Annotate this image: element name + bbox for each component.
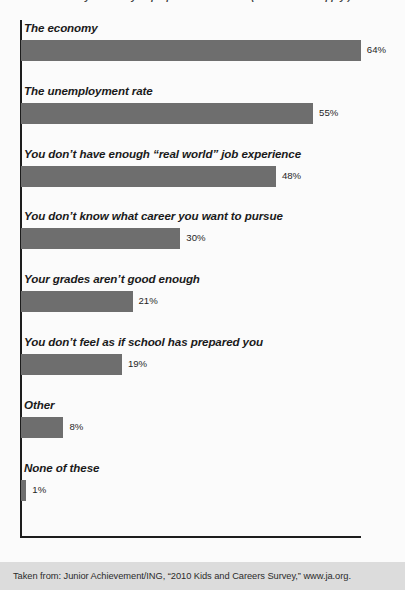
bar-track [21, 291, 133, 312]
bar-row: You don’t have enough “real world” job e… [0, 147, 405, 209]
survey-bar-chart-figure: worried about your ability to prepare fo… [0, 0, 405, 590]
bar-track [21, 166, 276, 187]
chart-title-text: worried about your ability to prepare fo… [18, 0, 351, 2]
bar-category-label: You don’t feel as if school has prepared… [24, 335, 263, 348]
bar-track [21, 480, 26, 501]
bar-fill [21, 103, 313, 124]
bar-track [21, 40, 361, 61]
bar-row: You don’t know what career you want to p… [0, 209, 405, 271]
bar-track [21, 103, 313, 124]
bar-fill [21, 228, 180, 249]
bar-track [21, 417, 63, 438]
bar-value-label: 19% [128, 358, 147, 369]
bar-category-label: You don’t know what career you want to p… [24, 209, 283, 222]
plot-area: The economy64%The unemployment rate55%Yo… [0, 9, 405, 562]
bar-row: You don’t feel as if school has prepared… [0, 335, 405, 397]
bar-value-label: 21% [139, 295, 158, 306]
bar-fill [21, 166, 276, 187]
source-attribution: Taken from: Junior Achievement/ING, “201… [13, 571, 351, 581]
bar-value-label: 48% [282, 170, 301, 181]
bar-row: Your grades aren’t good enough21% [0, 272, 405, 334]
bar-fill [21, 417, 63, 438]
bar-row: The economy64% [0, 21, 405, 83]
bar-value-label: 64% [367, 44, 386, 55]
bar-row: The unemployment rate55% [0, 84, 405, 146]
bar-value-label: 30% [186, 232, 205, 243]
bar-value-label: 8% [69, 421, 83, 432]
bar-category-label: You don’t have enough “real world” job e… [24, 147, 301, 160]
chart-title-cropped: worried about your ability to prepare fo… [0, 0, 405, 9]
bar-row: Other8% [0, 398, 405, 460]
bar-category-label: The unemployment rate [24, 84, 153, 97]
bar-fill [21, 354, 122, 375]
footer-band: Taken from: Junior Achievement/ING, “201… [0, 562, 405, 590]
bar-value-label: 1% [32, 484, 46, 495]
bar-category-label: None of these [24, 461, 99, 474]
bar-value-label: 55% [319, 107, 338, 118]
bar-track [21, 354, 122, 375]
bar-fill [21, 480, 26, 501]
bar-category-label: Your grades aren’t good enough [24, 272, 200, 285]
x-axis-line [20, 536, 361, 538]
bar-fill [21, 40, 361, 61]
bar-category-label: Other [24, 398, 54, 411]
bar-fill [21, 291, 133, 312]
bar-row: None of these1% [0, 461, 405, 523]
bar-category-label: The economy [24, 21, 98, 34]
bar-track [21, 228, 180, 249]
